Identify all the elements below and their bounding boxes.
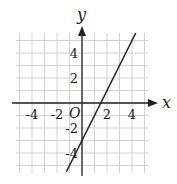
axes [12,26,158,176]
y-axis-arrow-icon [78,26,86,36]
origin-label: O [69,105,81,121]
x-tick-label: 2 [103,107,111,122]
y-tick-label: 2 [70,71,78,86]
y-tick-label: -2 [65,121,78,136]
x-tick-label: -2 [51,107,64,122]
x-axis-arrow-icon [148,99,158,107]
x-tick-label: 4 [128,107,136,122]
y-axis-label: y [76,5,87,24]
coordinate-plane: -4-22442-2-4 x y O [0,0,177,184]
x-axis-label: x [162,93,171,112]
x-tick-label: -4 [26,107,39,122]
y-tick-label: 4 [70,46,78,61]
